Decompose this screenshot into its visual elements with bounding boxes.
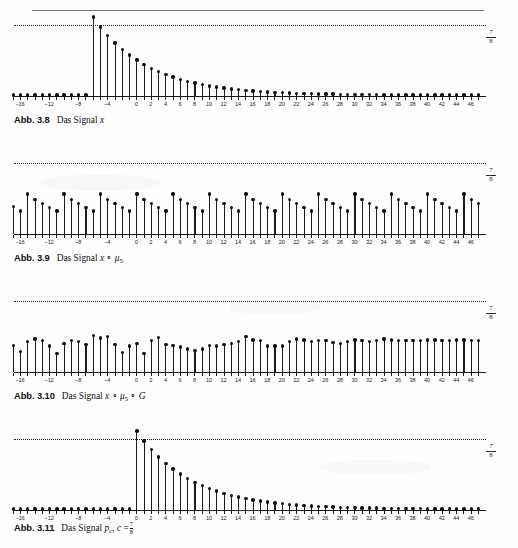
x-axis-tick — [122, 511, 123, 514]
data-point-marker — [201, 484, 204, 487]
x-axis-tick — [311, 511, 312, 514]
x-axis-tick — [442, 511, 443, 514]
x-axis-tick — [64, 511, 65, 514]
stem-line — [151, 450, 152, 510]
x-axis-tick — [194, 511, 195, 514]
x-axis-tick — [413, 511, 414, 514]
data-point-marker — [295, 503, 298, 506]
stem-line — [187, 479, 188, 510]
data-point-marker — [164, 462, 167, 465]
x-axis-tick — [49, 511, 50, 514]
stem-line — [158, 458, 159, 510]
x-axis-tick — [78, 511, 79, 514]
x-axis-tick — [456, 511, 457, 514]
x-axis-tick — [173, 511, 174, 514]
data-point-marker — [244, 497, 247, 500]
stem-line — [231, 496, 232, 510]
x-axis-tick — [85, 511, 86, 514]
data-point-marker — [288, 503, 291, 506]
x-axis-tick — [333, 511, 334, 514]
data-point-marker — [135, 429, 138, 432]
x-axis-tick — [216, 511, 217, 514]
stem-line — [245, 499, 246, 510]
x-axis-tick — [136, 511, 137, 514]
data-point-marker — [317, 505, 320, 508]
x-axis-tick — [391, 511, 392, 514]
figure-caption-text: Das Signal pc, c =78 — [61, 523, 133, 533]
x-axis-tick — [202, 511, 203, 514]
stem-plot-abb-3-11: 78−16−12−8−40246810121416182022242628303… — [0, 0, 518, 530]
x-axis-tick — [296, 511, 297, 514]
reference-line-seven-eighths — [14, 439, 486, 440]
data-point-marker — [237, 495, 240, 498]
stem-line — [216, 492, 217, 510]
data-point-marker — [390, 507, 393, 510]
x-axis-tick — [245, 511, 246, 514]
stem-line — [173, 470, 174, 510]
fraction-numerator: 7 — [484, 443, 498, 450]
data-point-marker — [215, 489, 218, 492]
data-point-marker — [360, 506, 363, 509]
stem-line — [180, 475, 181, 510]
x-axis-tick — [20, 511, 21, 514]
x-axis-tick — [115, 511, 116, 514]
data-point-marker — [186, 477, 189, 480]
x-axis-tick — [253, 511, 254, 514]
x-axis-tick-label: 46 — [463, 515, 479, 521]
x-axis-tick — [325, 511, 326, 514]
x-axis-tick — [42, 511, 43, 514]
x-axis-tick — [427, 511, 428, 514]
x-axis-tick — [478, 511, 479, 514]
data-point-marker — [310, 504, 313, 507]
x-axis-tick — [107, 511, 108, 514]
data-point-marker — [368, 506, 371, 509]
x-axis-tick — [158, 511, 159, 514]
x-axis-tick — [35, 511, 36, 514]
data-point-marker — [302, 504, 305, 507]
x-axis-tick — [354, 511, 355, 514]
data-point-marker — [382, 507, 385, 510]
data-point-marker — [324, 505, 327, 508]
x-axis-tick — [93, 511, 94, 514]
stem-line — [260, 502, 261, 510]
x-axis-tick — [13, 511, 14, 514]
x-axis-tick — [224, 511, 225, 514]
stem-line — [136, 432, 137, 510]
data-point-marker — [259, 499, 262, 502]
x-axis-tick — [347, 511, 348, 514]
figure-caption-abb-3-11: Abb. 3.11Das Signal pc, c =78 — [14, 521, 133, 535]
data-point-marker — [150, 448, 153, 451]
caption-fraction-seven-eighths: 78 — [130, 521, 133, 535]
stem-line — [209, 489, 210, 510]
data-point-marker — [273, 501, 276, 504]
stem-line — [224, 494, 225, 510]
x-axis-tick — [318, 511, 319, 514]
x-axis-tick — [449, 511, 450, 514]
data-point-marker — [171, 467, 174, 470]
x-axis-tick — [260, 511, 261, 514]
x-axis-tick — [165, 511, 166, 514]
data-point-marker — [266, 500, 269, 503]
x-axis-tick — [282, 511, 283, 514]
x-axis-tick — [144, 511, 145, 514]
x-axis-tick — [376, 511, 377, 514]
textbook-page: 78−16−12−8−40246810121416182022242628303… — [0, 0, 518, 548]
x-axis-tick — [231, 511, 232, 514]
x-axis-tick — [56, 511, 57, 514]
x-axis-tick — [471, 511, 472, 514]
reference-value-label: 78 — [484, 443, 498, 459]
x-axis-tick — [267, 511, 268, 514]
data-point-marker — [353, 506, 356, 509]
data-point-marker — [208, 487, 211, 490]
stem-line — [238, 498, 239, 510]
fraction-numerator: 7 — [130, 521, 133, 528]
x-axis-tick — [71, 511, 72, 514]
stem-line — [267, 503, 268, 510]
x-axis-tick — [434, 511, 435, 514]
data-point-marker — [251, 498, 254, 501]
stem-line — [253, 501, 254, 510]
stem-line — [144, 442, 145, 510]
x-axis-tick — [180, 511, 181, 514]
data-point-marker — [346, 506, 349, 509]
x-axis-tick — [129, 511, 130, 514]
